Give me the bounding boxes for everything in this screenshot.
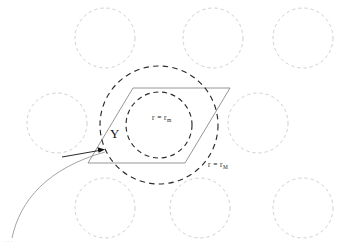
lattice-circle-middle-right xyxy=(228,93,288,153)
lattice-circle-bottom-right xyxy=(273,178,333,238)
unit-cell-parallelogram xyxy=(88,88,230,163)
lattice-circle-top-center xyxy=(183,8,243,68)
lattice-vector-arrow xyxy=(62,147,105,157)
circumscribed-sphere-circle xyxy=(100,66,218,184)
lattice-circle-group xyxy=(27,8,333,238)
figure-canvas xyxy=(0,0,341,246)
inscribed-sphere-circle xyxy=(126,92,192,158)
lattice-circle-bottom-center xyxy=(170,178,230,238)
lattice-circle-top-right xyxy=(273,8,333,68)
boundary-curve xyxy=(12,152,105,238)
lattice-unit-cell-figure: r = rm r = rM Y ... xyxy=(0,0,341,246)
lattice-circle-middle-left xyxy=(27,93,87,153)
lattice-circle-bottom-left xyxy=(75,178,135,238)
lattice-circle-top-left xyxy=(75,8,135,68)
